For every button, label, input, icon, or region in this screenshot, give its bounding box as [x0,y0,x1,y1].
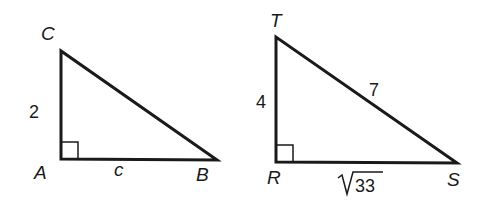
triangle-rst-shape [276,37,457,163]
side-label-rs: 33 [338,172,383,196]
right-angle-marker-r [276,145,293,162]
vertex-label-s: S [447,169,460,190]
figure: C A B 2 c T R S 4 7 33 [0,0,478,206]
side-label-ts: 7 [369,80,379,100]
sqrt-radicand: 33 [355,176,375,196]
side-label-ab: c [114,159,124,180]
triangle-rst: T R S 4 7 33 [256,10,460,196]
vertex-label-c: C [41,23,55,44]
vertex-label-a: A [33,162,47,183]
vertex-label-b: B [196,164,209,185]
side-label-rt: 4 [256,92,266,112]
vertex-label-t: T [270,10,283,31]
vertex-label-r: R [267,167,281,188]
triangle-abc: C A B 2 c [29,23,217,185]
side-label-ac: 2 [29,102,39,122]
right-angle-marker-a [61,142,78,159]
triangle-abc-shape [61,51,217,160]
